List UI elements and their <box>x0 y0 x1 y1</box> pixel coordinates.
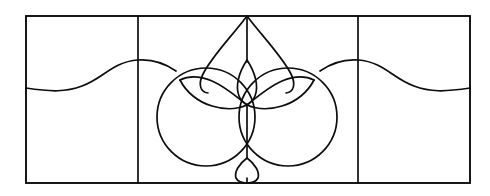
panel-background <box>0 0 490 196</box>
artwork-panel <box>0 0 490 196</box>
decorative-panel-drawing <box>0 0 490 196</box>
